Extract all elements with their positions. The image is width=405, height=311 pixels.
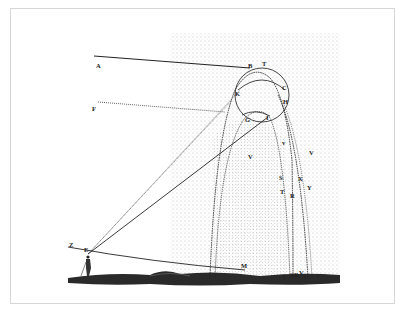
stippled-sky <box>170 33 340 278</box>
label-R: R <box>290 192 295 199</box>
label-M: M <box>241 262 247 269</box>
label-F: F <box>92 105 96 112</box>
rainbow-diagram: A B T C K H F G I V v V S T R X Y Z E M … <box>0 0 405 311</box>
label-C: C <box>282 84 287 91</box>
label-A: A <box>96 62 101 69</box>
label-E: E <box>84 246 88 253</box>
label-T-top: T <box>262 60 267 67</box>
label-X: X <box>298 175 303 182</box>
label-K: K <box>235 90 240 97</box>
label-V-right: V <box>309 149 314 156</box>
label-T-ground: T <box>282 273 287 280</box>
label-T-mid: T <box>280 188 285 195</box>
label-V-inner: V <box>248 153 253 160</box>
label-Y-ground: Y <box>316 272 321 279</box>
label-Y-mid: Y <box>307 184 312 191</box>
observer-figure <box>81 255 91 276</box>
label-B: B <box>248 62 253 69</box>
label-H: H <box>283 98 288 105</box>
label-S: S <box>279 174 283 181</box>
label-Z: Z <box>69 241 73 248</box>
label-G: G <box>245 116 250 123</box>
